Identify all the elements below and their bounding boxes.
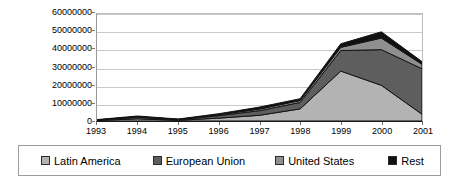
plot-area [96,13,423,122]
x-axis-tick-mark [260,122,261,125]
x-axis-tick-label: 1998 [277,126,323,136]
x-axis-tick-label: 1994 [114,126,160,136]
stacked-area-series [97,14,422,121]
x-axis-tick-mark [178,122,179,125]
y-axis-tick-mark [92,103,95,104]
y-axis-tick-mark [92,67,95,68]
legend-swatch-european-union [153,156,162,165]
x-axis-tick-mark [382,122,383,125]
x-axis: 199319941995199619971998199920002001 [96,126,423,140]
legend-swatch-latin-america [41,156,50,165]
y-axis-tick-label: 20000000 [0,81,92,90]
x-axis-tick-label: 2001 [400,126,446,136]
legend-swatch-united-states [275,156,284,165]
x-axis-tick-label: 1999 [318,126,364,136]
area-chart: 0100000002000000030000000400000005000000… [0,0,459,185]
y-axis-tick-label: 40000000 [0,44,92,53]
chart-legend: Latin America European Union United Stat… [18,145,441,176]
y-axis-tick-mark [92,48,95,49]
y-axis-tick-label: 10000000 [0,99,92,108]
y-axis-tick-mark [92,30,95,31]
legend-item-rest[interactable]: Rest [388,155,424,167]
legend-label-rest: Rest [401,155,424,167]
y-axis-tick-mark [92,12,95,13]
legend-label-united-states: United States [288,155,354,167]
x-axis-tick-mark [137,122,138,125]
y-axis-tick-label: 50000000 [0,26,92,35]
x-axis-tick-mark [341,122,342,125]
y-axis-tick-label: 60000000 [0,8,92,17]
y-axis: 0100000002000000030000000400000005000000… [0,0,92,135]
y-axis-tick-mark [92,85,95,86]
legend-label-european-union: European Union [166,155,246,167]
y-axis-tick-mark [92,121,95,122]
x-axis-tick-mark [219,122,220,125]
x-axis-tick-label: 1997 [237,126,283,136]
legend-swatch-rest [388,156,397,165]
legend-item-united-states[interactable]: United States [275,155,354,167]
legend-label-latin-america: Latin America [54,155,121,167]
x-axis-tick-mark [422,122,423,125]
x-axis-tick-mark [96,122,97,125]
legend-item-latin-america[interactable]: Latin America [41,155,121,167]
y-axis-tick-label: 0 [0,117,92,126]
x-axis-tick-label: 1996 [196,126,242,136]
x-axis-tick-label: 1995 [155,126,201,136]
x-axis-tick-label: 2000 [359,126,405,136]
y-axis-tick-label: 30000000 [0,63,92,72]
x-axis-tick-mark [300,122,301,125]
legend-item-european-union[interactable]: European Union [153,155,246,167]
x-axis-tick-label: 1993 [73,126,119,136]
